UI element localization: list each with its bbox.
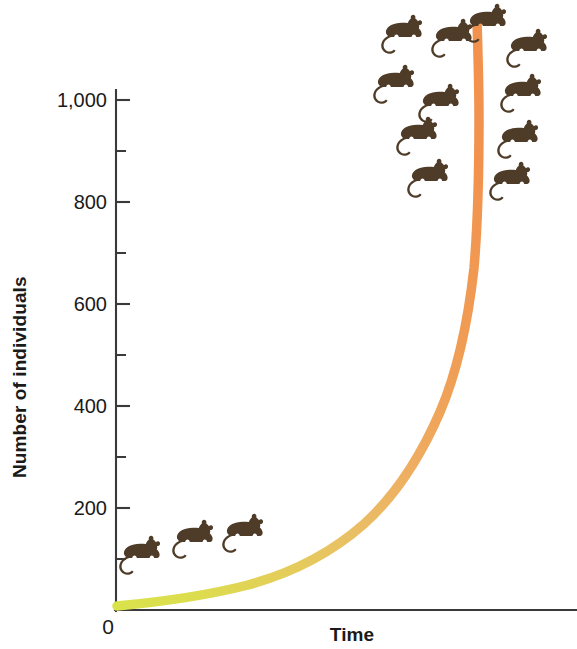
mouse-icon [431, 19, 472, 58]
exponential-growth-line [117, 22, 479, 606]
mouse-icon [373, 65, 414, 104]
x-axis-title: Time [330, 624, 374, 645]
mouse-icon [222, 514, 263, 553]
mouse-icon [506, 29, 547, 68]
mouse-cluster-low-population [119, 514, 263, 575]
mouse-icon [119, 536, 160, 575]
mouse-icon [407, 159, 448, 198]
origin-label-zero: 0 [102, 615, 114, 638]
y-axis-major-ticks [116, 100, 130, 508]
y-axis-minor-ticks [116, 151, 126, 559]
y-axis-title: Number of individuals [9, 276, 30, 478]
y-tick-label-400: 400 [74, 395, 107, 417]
axes-group: 1,000 800 600 400 200 0 Number of indivi… [9, 89, 576, 645]
mouse-icon [381, 15, 422, 54]
mouse-icon [172, 520, 213, 559]
figure-canvas: 1,000 800 600 400 200 0 Number of indivi… [0, 0, 577, 649]
y-tick-label-800: 800 [74, 191, 107, 213]
y-tick-label-600: 600 [74, 293, 107, 315]
mouse-icon [418, 84, 459, 123]
mouse-icon [396, 117, 437, 156]
mouse-icon [497, 120, 538, 159]
y-tick-label-200: 200 [74, 497, 107, 519]
mouse-icon [500, 74, 541, 113]
exponential-growth-figure: 1,000 800 600 400 200 0 Number of indivi… [0, 0, 577, 649]
mouse-cluster-high-population [373, 4, 547, 201]
y-tick-label-1000: 1,000 [57, 89, 107, 111]
growth-curve-group [117, 22, 479, 606]
mouse-icon [489, 162, 530, 201]
